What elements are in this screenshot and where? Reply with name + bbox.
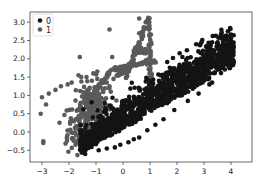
data-point	[105, 118, 110, 123]
data-point	[122, 125, 127, 130]
y-tick-label: 0.0	[13, 128, 25, 137]
data-point	[133, 100, 138, 105]
data-point	[97, 95, 102, 100]
data-point	[72, 119, 77, 124]
data-point	[79, 75, 84, 80]
data-point	[112, 118, 117, 123]
data-point	[188, 64, 193, 69]
data-point	[185, 56, 190, 61]
data-point	[95, 69, 100, 74]
data-point	[95, 77, 100, 82]
data-point	[40, 95, 45, 100]
data-point	[201, 48, 206, 53]
data-point	[82, 144, 87, 149]
data-point	[197, 64, 202, 69]
data-point	[137, 16, 142, 21]
data-point	[97, 123, 102, 128]
data-point	[128, 86, 133, 91]
data-point	[158, 73, 163, 78]
y-axis: −0.50.00.51.01.52.02.53.0	[7, 18, 30, 155]
y-tick-label: 0.5	[13, 109, 25, 118]
data-point	[115, 128, 120, 133]
data-point	[169, 73, 174, 78]
data-point	[103, 97, 108, 102]
data-point	[141, 107, 146, 112]
data-point	[183, 70, 188, 75]
y-tick-label: 1.0	[13, 91, 25, 100]
data-point	[206, 62, 211, 67]
data-point	[175, 77, 180, 82]
data-point	[130, 80, 135, 85]
data-point	[137, 89, 142, 94]
data-point	[141, 92, 146, 97]
data-point	[198, 43, 203, 48]
data-points	[38, 16, 236, 158]
data-point	[183, 64, 188, 69]
data-point	[83, 126, 88, 131]
data-point	[79, 138, 84, 143]
data-point	[208, 44, 213, 49]
data-point	[227, 49, 232, 54]
data-point	[113, 145, 118, 150]
data-point	[131, 115, 136, 120]
data-point	[165, 72, 170, 77]
data-point	[142, 111, 147, 116]
data-point	[147, 26, 152, 31]
data-point	[132, 85, 137, 90]
data-point	[161, 117, 166, 122]
y-tick-label: 3.0	[13, 18, 25, 27]
data-point	[186, 76, 191, 81]
legend-label-0: 0	[46, 17, 51, 26]
data-point	[73, 98, 78, 103]
x-tick-label: 2	[175, 167, 180, 176]
data-point	[137, 31, 142, 36]
data-point	[90, 109, 95, 114]
x-tick-label: 1	[148, 167, 153, 176]
x-tick-label: 0	[121, 167, 126, 176]
data-point	[201, 53, 206, 58]
data-point	[208, 71, 213, 76]
data-point	[38, 111, 43, 116]
data-point	[221, 58, 226, 63]
data-point	[78, 123, 83, 128]
data-point	[206, 49, 211, 54]
data-point	[141, 99, 146, 104]
data-point	[82, 85, 87, 90]
data-point	[75, 153, 80, 158]
data-point	[219, 28, 224, 33]
data-point	[74, 88, 79, 93]
data-point	[210, 56, 215, 61]
data-point	[85, 79, 90, 84]
data-point	[176, 82, 181, 87]
data-point	[130, 64, 135, 69]
data-point	[151, 77, 156, 82]
data-point	[57, 121, 62, 126]
data-point	[148, 33, 153, 38]
data-point	[110, 112, 115, 117]
data-point	[107, 84, 112, 89]
data-point	[177, 51, 182, 56]
data-point	[53, 88, 58, 93]
data-point	[171, 56, 176, 61]
data-point	[153, 60, 158, 65]
data-point	[172, 108, 177, 113]
data-point	[157, 94, 162, 99]
data-point	[81, 107, 86, 112]
data-point	[169, 91, 174, 96]
data-point	[47, 91, 52, 96]
y-tick-label: 1.5	[13, 73, 25, 82]
data-point	[96, 137, 101, 142]
data-point	[91, 71, 96, 76]
data-point	[84, 75, 89, 80]
data-point	[216, 63, 221, 68]
data-point	[145, 128, 150, 133]
data-point	[146, 78, 151, 83]
x-axis: −3−2−101234	[36, 162, 233, 176]
data-point	[90, 79, 95, 84]
legend: 0 1	[33, 14, 53, 36]
x-tick-label: −1	[90, 167, 101, 176]
data-point	[79, 115, 84, 120]
data-point	[111, 77, 116, 82]
data-point	[83, 152, 88, 157]
data-point	[96, 148, 101, 153]
